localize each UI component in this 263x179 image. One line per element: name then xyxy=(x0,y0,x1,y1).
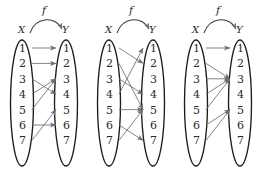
domain-element-4: 4 xyxy=(106,88,113,101)
codomain-element-7: 7 xyxy=(237,134,244,147)
domain-element-4: 4 xyxy=(193,88,200,101)
domain-element-1: 1 xyxy=(19,42,26,55)
codomain-set-label: Y xyxy=(236,24,244,35)
codomain-element-5: 5 xyxy=(237,104,244,117)
domain-element-3: 3 xyxy=(19,73,26,86)
mapping-arrow-7-to-5 xyxy=(206,110,230,141)
mapping-arrow-7-to-5 xyxy=(119,110,143,141)
domain-element-2: 2 xyxy=(106,57,113,70)
function-label: f xyxy=(128,4,135,17)
diagram-3: XYf12345671234567 xyxy=(174,0,262,179)
domain-element-5: 5 xyxy=(19,104,26,117)
domain-element-6: 6 xyxy=(106,119,113,132)
codomain-element-3: 3 xyxy=(150,73,157,86)
function-diagrams-figure: XYf12345671234567XYf12345671234567XYf123… xyxy=(0,0,263,179)
codomain-element-2: 2 xyxy=(150,57,157,70)
codomain-element-1: 1 xyxy=(150,42,157,55)
domain-element-2: 2 xyxy=(19,57,26,70)
domain-element-3: 3 xyxy=(106,73,113,86)
domain-element-4: 4 xyxy=(19,88,26,101)
domain-element-7: 7 xyxy=(193,134,200,147)
domain-element-1: 1 xyxy=(193,42,200,55)
function-label: f xyxy=(41,4,48,17)
codomain-element-4: 4 xyxy=(237,88,244,101)
mapping-arrow-4-to-3 xyxy=(206,79,230,94)
mapping-arrow-2-to-3 xyxy=(206,63,230,78)
codomain-element-7: 7 xyxy=(150,134,157,147)
codomain-element-5: 5 xyxy=(63,104,70,117)
codomain-element-1: 1 xyxy=(237,42,244,55)
codomain-element-5: 5 xyxy=(150,104,157,117)
codomain-element-4: 4 xyxy=(63,88,70,101)
domain-element-1: 1 xyxy=(106,42,113,55)
codomain-element-6: 6 xyxy=(63,119,70,132)
domain-element-5: 5 xyxy=(106,104,113,117)
domain-element-3: 3 xyxy=(193,73,200,86)
codomain-set-label: Y xyxy=(62,24,70,35)
codomain-element-3: 3 xyxy=(63,73,70,86)
function-arc xyxy=(204,20,236,33)
domain-element-6: 6 xyxy=(193,119,200,132)
diagram-1: XYf12345671234567 xyxy=(0,0,88,179)
domain-element-6: 6 xyxy=(19,119,26,132)
codomain-element-4: 4 xyxy=(150,88,157,101)
codomain-element-3: 3 xyxy=(237,73,244,86)
function-arc xyxy=(117,20,149,33)
mapping-arrow-5-to-3 xyxy=(32,79,56,110)
mapping-arrow-6-to-5 xyxy=(206,110,230,125)
codomain-element-6: 6 xyxy=(150,119,157,132)
mapping-arrow-6-to-7 xyxy=(119,125,143,140)
diagram-2: XYf12345671234567 xyxy=(87,0,175,179)
codomain-element-2: 2 xyxy=(237,57,244,70)
mapping-arrow-5-to-3 xyxy=(206,79,230,110)
domain-element-5: 5 xyxy=(193,104,200,117)
domain-set-label: X xyxy=(191,24,200,35)
domain-element-7: 7 xyxy=(19,134,26,147)
domain-element-2: 2 xyxy=(193,57,200,70)
function-label: f xyxy=(215,4,222,17)
function-arc xyxy=(30,20,62,33)
domain-set-label: X xyxy=(17,24,26,35)
domain-set-label: X xyxy=(104,24,113,35)
domain-element-7: 7 xyxy=(106,134,113,147)
codomain-element-6: 6 xyxy=(237,119,244,132)
codomain-element-2: 2 xyxy=(63,57,70,70)
codomain-element-1: 1 xyxy=(63,42,70,55)
codomain-set-label: Y xyxy=(149,24,157,35)
codomain-element-7: 7 xyxy=(63,134,70,147)
